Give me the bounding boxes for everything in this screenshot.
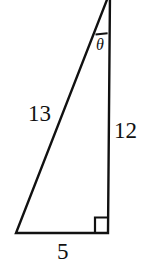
base-leg-length-label: 5 [57, 240, 69, 263]
angle-arc-icon [96, 33, 108, 34]
right-angle-square-icon [95, 218, 108, 233]
theta-angle-label: θ [96, 37, 104, 53]
hypotenuse-length-label: 13 [28, 102, 51, 125]
vertical-leg-length-label: 12 [114, 119, 137, 142]
right-triangle-figure: 13 12 5 θ [0, 0, 152, 266]
